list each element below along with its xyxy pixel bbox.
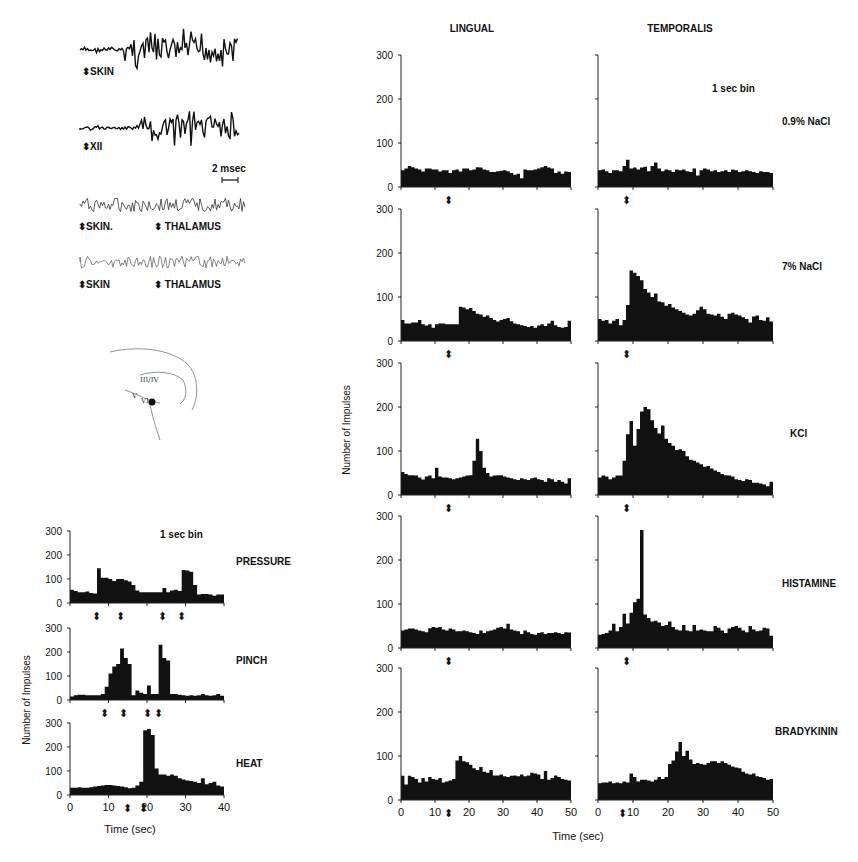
up-arrow-icon: ⬍ [82, 66, 90, 77]
stimulus-arrow-icon: ⬍ [444, 502, 453, 514]
trace-label-skin: ⬍SKIN [82, 66, 114, 77]
stimulus-arrow-icon: ⬍ [177, 610, 186, 622]
y-tick-label: 300 [376, 511, 393, 522]
condition-label: BRADYKININ [775, 726, 838, 737]
bin-label: 1 sec bin [712, 83, 755, 94]
y-tick-label: 200 [45, 742, 62, 753]
waveform-thalamus-2 [80, 256, 245, 268]
svg-text:VI: VI [140, 397, 149, 405]
column-title-lingual: LINGUAL [450, 23, 494, 34]
histogram-pinch: 0100200300⬍⬍⬍⬍PINCH [45, 623, 267, 719]
condition-label: HEAT [236, 758, 262, 769]
histogram-0-9-nacl: ⬍0.9% NaCl [595, 55, 831, 206]
y-tick-label: 200 [45, 647, 62, 658]
x-tick-label: 50 [767, 806, 779, 818]
stimulus-arrow-icon: ⬍ [444, 807, 453, 819]
histogram-bars [598, 271, 773, 341]
trace-row-skin: ⬍SKIN [80, 29, 238, 77]
condition-label: HISTAMINE [782, 578, 837, 589]
histogram-pressure: 0100200300⬍⬍⬍⬍PRESSURE [45, 526, 291, 622]
histogram-histamine: 0100200300⬍ [376, 511, 571, 667]
y-axis-label: Number of Impulses [341, 385, 352, 474]
y-tick-label: 100 [376, 446, 393, 457]
histogram-bars [401, 756, 571, 800]
y-tick-label: 100 [376, 599, 393, 610]
y-tick-label: 0 [56, 598, 62, 609]
trace-label-skin: ⬍SKIN. [78, 221, 113, 232]
scale-bar: 2 msec [212, 163, 246, 183]
stimulus-arrow-icon: ⬍ [143, 707, 152, 719]
figure: ⬍SKIN ⬍XII 2 msec ⬍SKIN. ⬍ THALAMUS ⬍SKI… [0, 0, 858, 862]
histogram-7-nacl: 0100200300⬍ [376, 204, 571, 360]
y-tick-label: 200 [376, 402, 393, 413]
y-tick-label: 100 [45, 671, 62, 682]
x-tick-label: 40 [732, 806, 744, 818]
y-tick-label: 100 [376, 751, 393, 762]
column-title-temporalis: TEMPORALIS [647, 23, 713, 34]
condition-label: 0.9% NaCl [782, 116, 831, 127]
y-tick-label: 200 [376, 707, 393, 718]
trace-row-skin-thalamus-1: ⬍SKIN. ⬍ THALAMUS [78, 198, 245, 232]
y-tick-label: 0 [387, 490, 393, 501]
brain-section-sketch: III/IV V VI [110, 349, 197, 440]
stimulus-arrow-icon: ⬍ [116, 610, 125, 622]
y-tick-label: 0 [387, 795, 393, 806]
stimulus-arrow-icon: ⬍ [622, 655, 631, 667]
x-tick-label: 0 [67, 801, 73, 813]
stimulus-arrow-icon: ⬍ [618, 807, 627, 819]
y-tick-label: 200 [376, 94, 393, 105]
stimulus-arrow-icon: ⬍ [444, 348, 453, 360]
y-tick-label: 100 [376, 292, 393, 303]
histogram-bars [70, 645, 224, 700]
stimulus-arrow-icon: ⬍ [123, 802, 132, 814]
y-tick-label: 300 [45, 718, 62, 729]
x-tick-label: 10 [429, 806, 441, 818]
stimulus-arrow-icon: ⬍ [622, 194, 631, 206]
condition-label: PINCH [236, 655, 267, 666]
histogram-bars [598, 742, 773, 800]
y-tick-label: 300 [376, 204, 393, 215]
histogram-bars [401, 439, 571, 495]
y-tick-label: 300 [376, 50, 393, 61]
stimulus-arrow-icon: ⬍ [119, 707, 128, 719]
histogram-bars [70, 568, 224, 603]
scale-bar-label: 2 msec [212, 163, 246, 174]
y-tick-label: 100 [376, 138, 393, 149]
stimulus-arrow-icon: ⬍ [444, 194, 453, 206]
y-tick-label: 200 [376, 555, 393, 566]
trace-label-thalamus: ⬍ THALAMUS [154, 221, 221, 232]
x-tick-label: 30 [497, 806, 509, 818]
svg-text:V: V [131, 392, 138, 400]
y-axis-label: Number of Impulses [21, 655, 32, 744]
condition-label: PRESSURE [236, 556, 291, 567]
histogram-kcl: 0100200300⬍ [376, 358, 571, 514]
histogram-bradykinin: 01020304050⬍BRADYKININ [595, 668, 838, 819]
x-axis-label: Time (sec) [104, 823, 156, 835]
histogram-histamine: ⬍HISTAMINE [595, 516, 837, 667]
recording-site-dot [149, 399, 156, 406]
stimulus-arrow-icon: ⬍ [158, 610, 167, 622]
stimulus-arrow-icon: ⬍ [154, 707, 163, 719]
y-tick-label: 0 [56, 790, 62, 801]
y-tick-label: 200 [45, 550, 62, 561]
y-tick-label: 0 [387, 182, 393, 193]
histogram-7-nacl: ⬍7% NaCl [595, 209, 822, 360]
condition-label: 7% NaCl [782, 261, 822, 272]
x-tick-label: 0 [595, 806, 601, 818]
stimulus-arrow-icon: ⬍ [622, 502, 631, 514]
condition-label: KCl [790, 428, 807, 439]
y-tick-label: 0 [387, 643, 393, 654]
trace-label-xii: ⬍XII [82, 141, 102, 152]
svg-text:III/IV: III/IV [140, 376, 159, 384]
trace-label-skin: ⬍SKIN [78, 279, 110, 290]
stimulus-arrow-icon: ⬍ [622, 348, 631, 360]
x-tick-label: 10 [627, 806, 639, 818]
trace-row-xii: ⬍XII [80, 111, 239, 152]
up-arrow-icon: ⬍ [82, 141, 90, 152]
stimulus-arrow-icon: ⬍ [444, 655, 453, 667]
histogram-heat: 0100200300010203040⬍⬍HEAT [45, 718, 262, 814]
x-tick-label: 20 [662, 806, 674, 818]
y-tick-label: 300 [376, 358, 393, 369]
trace-label-thalamus: ⬍ THALAMUS [154, 279, 221, 290]
waveform-thalamus-1 [80, 198, 245, 212]
